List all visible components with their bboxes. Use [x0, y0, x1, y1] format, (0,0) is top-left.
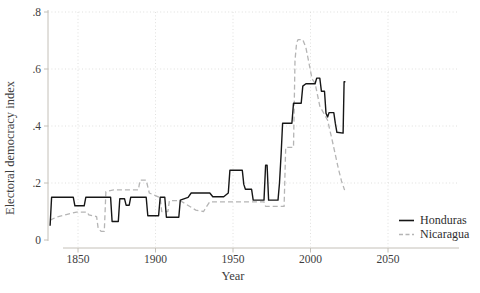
x-tick-label: 1850	[67, 253, 90, 265]
y-axis-title: Electoral democracy index	[3, 80, 17, 215]
legend-label-honduras: Honduras	[420, 213, 467, 227]
y-tick-label: .4	[32, 120, 41, 132]
x-tick-label: 2050	[377, 253, 400, 265]
legend-item-honduras: Honduras	[398, 213, 469, 227]
y-tick-label: .8	[32, 6, 41, 18]
chart-figure: 0.2.4.6.818501900195020002050 Electoral …	[0, 0, 480, 293]
legend-label-nicaragua: Nicaragua	[420, 227, 469, 241]
legend: Honduras Nicaragua	[398, 213, 469, 241]
nicaragua-line	[50, 40, 345, 232]
legend-item-nicaragua: Nicaragua	[398, 227, 469, 241]
honduras-line-sample-icon	[398, 213, 415, 227]
honduras-line	[50, 78, 345, 226]
y-tick-label: .2	[32, 177, 41, 189]
y-tick-label: .6	[32, 63, 41, 75]
line-chart: 0.2.4.6.818501900195020002050 Electoral …	[0, 0, 480, 293]
x-axis-title: Year	[221, 269, 245, 283]
y-tick-label: 0	[35, 234, 41, 246]
x-tick-label: 1950	[222, 253, 245, 265]
x-tick-label: 1900	[144, 253, 167, 265]
nicaragua-line-sample-icon	[398, 227, 415, 241]
x-tick-label: 2000	[299, 253, 322, 265]
plot-area: 0.2.4.6.818501900195020002050	[32, 6, 459, 265]
